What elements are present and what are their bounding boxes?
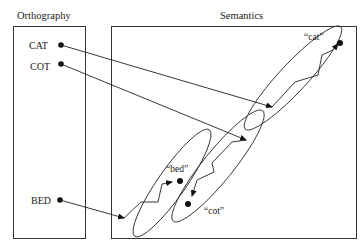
cat-semantic-label: “cat”	[304, 32, 324, 42]
bed-semantic-node	[177, 178, 183, 184]
cot-semantic-node	[185, 201, 191, 207]
bed-mapping-arrow	[60, 200, 124, 218]
semantics-label: Semantics	[220, 10, 263, 21]
bed-trajectory	[124, 182, 172, 218]
cot-semantic-label: “cot”	[204, 206, 224, 216]
orthography-panel	[14, 27, 86, 239]
word-cot: COT	[30, 61, 50, 72]
bed-attractor-basin	[123, 122, 221, 245]
word-bed: BED	[31, 195, 51, 206]
cat-trajectory	[272, 44, 338, 107]
cat-attractor-basin	[235, 17, 351, 138]
word-cat: CAT	[29, 40, 48, 51]
cat-semantic-node	[337, 40, 343, 46]
semantics-panel	[112, 27, 357, 239]
cat-mapping-arrow	[61, 45, 272, 107]
bed-semantic-label: “bed”	[166, 164, 188, 174]
orthography-label: Orthography	[17, 10, 71, 21]
cot-mapping-arrow	[61, 64, 246, 140]
attractor-diagram: Orthography Semantics CAT COT BED “cat” …	[0, 0, 363, 249]
